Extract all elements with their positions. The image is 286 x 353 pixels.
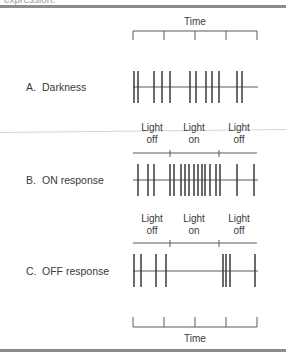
time-scale-top: Time <box>133 16 257 40</box>
time-label-bottom: Time <box>184 333 206 344</box>
b-light-off-1-line2: off <box>147 134 158 145</box>
b-light-off-1-line1: Light <box>141 122 163 133</box>
c-light-off-1-line1: Light <box>141 213 163 224</box>
spike-train-darkness <box>133 71 258 103</box>
c-light-off-2-line1: Light <box>228 213 250 224</box>
b-light-on-line1: Light <box>183 122 205 133</box>
b-light-on-line2: on <box>188 134 199 145</box>
spike-train-diagram: Time Light off Light on Light off Light … <box>0 0 286 353</box>
spike-train-on-response <box>133 164 258 196</box>
c-light-off-2-line2: off <box>234 225 245 236</box>
time-label-top: Time <box>184 16 206 27</box>
stimulus-labels-b: Light off Light on Light off <box>133 122 257 157</box>
time-scale-bottom: Time <box>133 317 257 344</box>
c-light-off-1-line2: off <box>147 225 158 236</box>
stimulus-labels-c: Light off Light on Light off <box>133 213 257 247</box>
spike-train-off-response <box>133 254 258 287</box>
c-light-on-line2: on <box>188 225 199 236</box>
b-light-off-2-line1: Light <box>228 122 250 133</box>
c-light-on-line1: Light <box>183 213 205 224</box>
b-light-off-2-line2: off <box>234 134 245 145</box>
